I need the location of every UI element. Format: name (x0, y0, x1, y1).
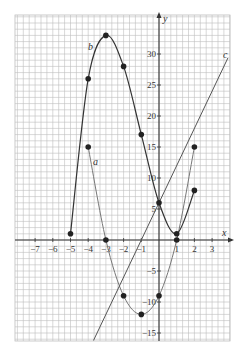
x-tick-label: −7 (30, 244, 40, 254)
y-axis-label: y (162, 13, 168, 24)
x-tick-label: −4 (83, 244, 93, 254)
function-graph: −7−6−5−4−3−2−1123−15−10−551015202530 x y… (0, 0, 239, 359)
data-point-b (68, 231, 74, 237)
data-point-a (85, 144, 91, 150)
data-point-b (139, 132, 145, 138)
curve-label-a: a (93, 156, 98, 167)
data-point-a (174, 237, 180, 243)
data-points (68, 33, 198, 318)
y-tick-label: 15 (147, 142, 157, 152)
x-tick-label: −1 (137, 244, 147, 254)
data-point-b (103, 33, 109, 39)
data-point-b (85, 76, 91, 82)
y-tick-label: −15 (142, 328, 157, 338)
data-point-a (121, 293, 127, 299)
curve-c (94, 58, 229, 341)
x-axis-arrow-icon (228, 238, 234, 243)
data-point-b (156, 200, 162, 206)
x-axis-label: x (221, 227, 227, 238)
x-tick-label: 2 (192, 244, 197, 254)
data-point-b (192, 188, 198, 194)
curve-label-c: c (223, 49, 228, 60)
data-point-a (156, 293, 162, 299)
y-tick-label: −5 (146, 266, 156, 276)
x-tick-label: −6 (48, 244, 58, 254)
x-tick-label: −2 (119, 244, 129, 254)
data-point-a (192, 144, 198, 150)
y-tick-label: 20 (147, 111, 157, 121)
y-tick-label: −10 (142, 297, 157, 307)
data-point-b (174, 231, 180, 237)
data-point-a (103, 237, 109, 243)
y-tick-label: 25 (147, 80, 157, 90)
x-tick-label: −3 (101, 244, 111, 254)
y-tick-label: 30 (147, 49, 157, 59)
curve-label-b: b (88, 41, 93, 52)
x-tick-label: 3 (210, 244, 215, 254)
data-point-b (121, 64, 127, 70)
axes (15, 12, 234, 341)
x-tick-label: −5 (66, 244, 76, 254)
data-point-a (139, 312, 145, 318)
